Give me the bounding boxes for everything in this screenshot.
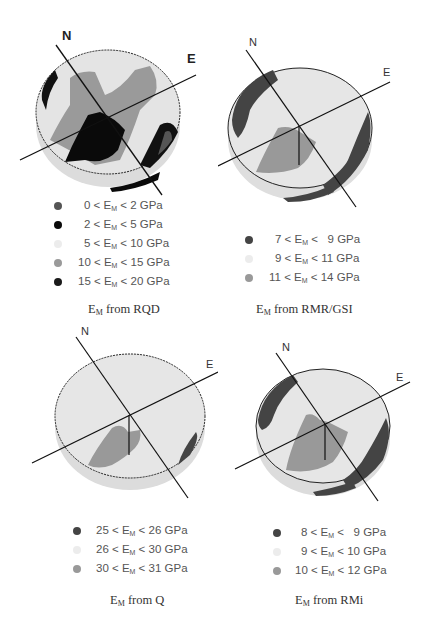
legend-item: 0 < EM < 2 GPa [48, 196, 208, 215]
legend-item: 30 < EM < 31 GPa [70, 559, 218, 578]
rmi-stereonet-disc: N E [218, 320, 436, 635]
legend-item: 25 < EM < 26 GPa [70, 521, 218, 540]
legend-swatch [245, 255, 253, 263]
north-label: N [249, 36, 257, 48]
q-stereonet-disc: N E [0, 320, 218, 635]
legend-item: 5 < EM < 10 GPa [48, 234, 208, 253]
legend-swatch [273, 567, 281, 575]
legend-item: 8 < EM < 9 GPa [270, 523, 436, 542]
legend-item: 15 < EM < 20 GPa [48, 272, 208, 291]
legend-swatch [245, 236, 253, 244]
rmr-gsi-legend: 7 < EM < 9 GPa 9 < EM < 11 GPa 11 < EM <… [242, 230, 422, 287]
legend-item: 11 < EM < 14 GPa [242, 268, 422, 287]
legend-item: 10 < EM < 12 GPa [270, 561, 436, 580]
panel-em-from-rmi: N E 8 < EM < 9 GPa 9 < EM < 10 GPa 10 < … [218, 320, 436, 635]
legend-item: 10 < EM < 15 GPa [48, 253, 208, 272]
north-label: N [282, 341, 290, 353]
legend-swatch [54, 202, 62, 210]
rmr-gsi-caption: EM from RMR/GSI [256, 302, 353, 317]
rqd-caption: EM from RQD [88, 302, 160, 317]
legend-item: 2 < EM < 5 GPa [48, 215, 208, 234]
legend-swatch [273, 529, 281, 537]
legend-swatch [54, 278, 62, 286]
legend-swatch [73, 546, 81, 554]
legend-item: 26 < EM < 30 GPa [70, 540, 218, 559]
north-label: N [62, 28, 71, 43]
rmi-caption: EM from RMi [295, 593, 363, 608]
legend-swatch [273, 548, 281, 556]
legend-swatch [73, 527, 81, 535]
panel-em-from-rmr-gsi: N E 7 < EM < 9 GPa 9 < EM < 11 GPa 11 < … [218, 0, 436, 320]
legend-item: 7 < EM < 9 GPa [242, 230, 422, 249]
rqd-legend: 0 < EM < 2 GPa 2 < EM < 5 GPa 5 < EM < 1… [48, 196, 208, 291]
east-label: E [396, 371, 403, 383]
q-caption: EM from Q [110, 593, 164, 608]
panel-em-from-q: N E 25 < EM < 26 GPa 26 < EM < 30 GPa 30… [0, 320, 218, 635]
east-label: E [187, 51, 196, 66]
legend-swatch [54, 259, 62, 267]
q-legend: 25 < EM < 26 GPa 26 < EM < 30 GPa 30 < E… [70, 521, 218, 578]
panel-em-from-rqd: N E 0 < EM < 2 GPa 2 < EM < 5 GPa 5 < EM… [0, 0, 218, 320]
east-label: E [206, 358, 213, 370]
rmi-legend: 8 < EM < 9 GPa 9 < EM < 10 GPa 10 < EM <… [270, 523, 436, 580]
legend-swatch [54, 240, 62, 248]
north-label: N [81, 325, 89, 337]
legend-swatch [245, 274, 253, 282]
legend-item: 9 < EM < 11 GPa [242, 249, 422, 268]
legend-swatch [54, 221, 62, 229]
legend-item: 9 < EM < 10 GPa [270, 542, 436, 561]
legend-swatch [73, 565, 81, 573]
east-label: E [383, 66, 390, 78]
